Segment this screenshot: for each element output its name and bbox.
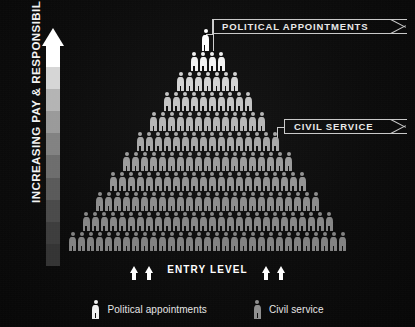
person-icon	[181, 92, 190, 111]
person-icon	[221, 232, 230, 251]
person-icon	[194, 192, 203, 211]
person-icon	[230, 72, 239, 91]
person-icon	[149, 192, 158, 211]
person-icon	[253, 300, 262, 318]
person-icon	[91, 300, 100, 318]
person-icon	[338, 232, 347, 251]
person-icon	[262, 212, 271, 231]
person-icon	[239, 152, 248, 171]
pyramid-row	[0, 151, 415, 171]
person-icon	[248, 112, 257, 131]
person-icon	[167, 152, 176, 171]
person-icon	[212, 192, 221, 211]
person-icon	[284, 192, 293, 211]
person-icon	[109, 172, 118, 191]
person-icon	[95, 232, 104, 251]
person-icon	[140, 232, 149, 251]
person-icon	[190, 92, 199, 111]
person-icon	[172, 92, 181, 111]
person-icon	[185, 192, 194, 211]
person-icon	[140, 192, 149, 211]
person-icon	[244, 132, 253, 151]
person-icon	[257, 192, 266, 211]
person-icon	[181, 172, 190, 191]
person-icon	[127, 172, 136, 191]
person-icon	[221, 192, 230, 211]
person-icon	[122, 192, 131, 211]
person-icon	[217, 172, 226, 191]
person-icon	[208, 132, 217, 151]
person-icon	[325, 212, 334, 231]
entry-level-callout: ENTRY LEVEL	[0, 264, 415, 275]
person-icon	[190, 172, 199, 191]
legend-item-political: Political appointments	[91, 300, 206, 318]
person-icon	[257, 152, 266, 171]
person-icon	[172, 172, 181, 191]
person-icon	[289, 172, 298, 191]
person-icon	[68, 232, 77, 251]
person-icon	[185, 152, 194, 171]
hierarchy-pyramid	[0, 28, 415, 260]
pyramid-row	[0, 171, 415, 191]
person-icon	[172, 132, 181, 151]
person-icon	[203, 112, 212, 131]
person-icon	[293, 232, 302, 251]
person-icon	[203, 152, 212, 171]
person-icon	[113, 232, 122, 251]
person-icon	[190, 132, 199, 151]
person-icon	[145, 172, 154, 191]
pyramid-row	[0, 28, 415, 51]
pyramid-row	[0, 111, 415, 131]
person-icon	[293, 192, 302, 211]
person-icon	[230, 152, 239, 171]
person-icon	[235, 92, 244, 111]
person-icon	[194, 72, 203, 91]
person-icon	[127, 212, 136, 231]
pyramid-row	[0, 51, 415, 71]
pyramid-row	[0, 91, 415, 111]
person-icon	[217, 52, 226, 71]
person-icon	[154, 212, 163, 231]
person-icon	[253, 212, 262, 231]
person-icon	[230, 192, 239, 211]
person-icon	[208, 212, 217, 231]
person-icon	[167, 232, 176, 251]
person-icon	[158, 112, 167, 131]
person-icon	[217, 92, 226, 111]
pyramid-row	[0, 131, 415, 151]
person-icon	[181, 132, 190, 151]
person-icon	[208, 172, 217, 191]
person-icon	[257, 232, 266, 251]
person-icon	[311, 232, 320, 251]
pyramid-row	[0, 211, 415, 231]
person-icon	[266, 192, 275, 211]
person-icon	[248, 232, 257, 251]
person-icon	[320, 232, 329, 251]
person-icon	[82, 212, 91, 231]
person-icon	[176, 152, 185, 171]
up-arrow-icon	[145, 266, 153, 273]
person-icon	[217, 212, 226, 231]
person-icon	[172, 212, 181, 231]
person-icon	[122, 152, 131, 171]
person-icon	[104, 192, 113, 211]
legend-label-political: Political appointments	[107, 304, 206, 315]
person-icon	[199, 52, 208, 71]
person-icon	[77, 232, 86, 251]
person-icon	[199, 212, 208, 231]
person-icon	[212, 232, 221, 251]
person-icon	[176, 112, 185, 131]
person-icon	[226, 92, 235, 111]
person-icon	[167, 192, 176, 211]
legend-item-civil: Civil service	[253, 300, 324, 318]
person-icon	[145, 132, 154, 151]
person-icon	[244, 172, 253, 191]
person-icon	[239, 192, 248, 211]
person-icon	[181, 212, 190, 231]
person-icon	[163, 92, 172, 111]
person-icon	[230, 112, 239, 131]
person-icon	[176, 232, 185, 251]
person-icon	[136, 132, 145, 151]
person-icon	[271, 132, 280, 151]
person-icon	[253, 172, 262, 191]
